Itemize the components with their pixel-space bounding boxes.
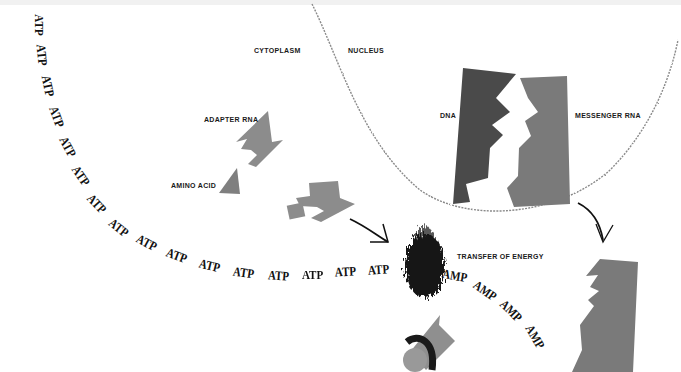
atp-molecule: ATP [31,14,47,35]
label-transfer-of-energy: TRANSFER OF ENERGY [457,253,544,260]
dna-strand [453,68,516,204]
atp-molecule: ATP [232,264,255,283]
atp-molecule: ATP [33,44,51,67]
atp-molecule: ATP [334,263,356,280]
label-cytoplasm: CYTOPLASM [254,47,301,54]
arrow-to-energy [350,219,388,242]
messenger-rna-fragment [572,259,638,372]
ribosome-ball [403,348,427,372]
label-amino-acid: AMINO ACID [171,182,216,189]
amino-acid-triangle [219,168,240,194]
diagram-artwork [0,0,681,372]
messenger-rna-strand [507,76,570,207]
label-nucleus: NUCLEUS [348,47,384,54]
energy-burst [405,226,445,298]
amino-acid-square [287,202,306,219]
label-messenger-rna: MESSENGER RNA [575,112,641,119]
label-dna: DNA [440,112,456,119]
label-adapter-rna: ADAPTER RNA [204,116,258,123]
arrow-mrna-down [578,203,603,240]
atp-molecule: ATP [367,261,389,278]
atp-molecule: ATP [302,267,323,283]
atp-molecule: ATP [267,267,289,284]
